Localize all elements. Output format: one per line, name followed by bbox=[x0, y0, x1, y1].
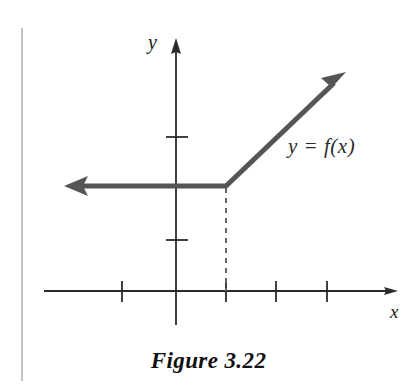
axis-label-y: y bbox=[148, 32, 157, 52]
axis-label-x: x bbox=[390, 302, 398, 321]
function-equation-label: y = f(x) bbox=[288, 136, 355, 157]
figure-caption: Figure 3.22 bbox=[0, 348, 417, 374]
figure-container: y x y = f(x) Figure 3.22 bbox=[0, 0, 417, 391]
y-axis-arrowhead bbox=[171, 38, 181, 54]
graph-plot bbox=[0, 0, 417, 391]
x-axis-arrowhead bbox=[384, 287, 398, 295]
